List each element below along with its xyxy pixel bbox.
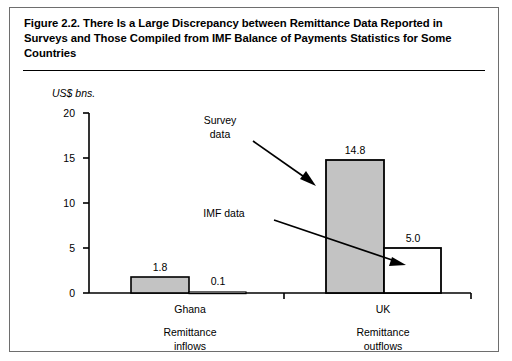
bar-uk-survey [326,160,384,293]
category-sublabel-ghana-line2: inflows [174,340,206,352]
bar-ghana-imf [189,292,246,294]
figure-frame: Figure 2.2. There Is a Large Discrepancy… [9,7,499,352]
bar-ghana-survey [131,277,189,293]
annotation-survey-line2: data [210,128,230,140]
category-sublabel-ghana-line1: Remittance [163,326,216,338]
bar-uk-imf [384,248,441,293]
chart-vector-layer [10,8,500,353]
annotation-imf-data: IMF data [189,206,259,220]
category-label-uk: UK [343,303,423,315]
bar-value-uk-survey: 14.8 [330,144,380,156]
annotation-survey-data: Survey data [188,113,252,141]
y-tick-label-10: 10 [49,197,75,209]
y-axis-unit-label: US$ bns. [52,87,95,99]
category-sublabel-uk-line1: Remittance [356,326,409,338]
bar-value-ghana-imf: 0.1 [193,275,243,287]
y-tick-label-5: 5 [49,242,75,254]
category-sublabel-uk: Remittance outflows [343,325,423,353]
annotation-survey-line1: Survey [204,114,237,126]
y-tick-label-0: 0 [49,287,75,299]
bar-value-uk-imf: 5.0 [388,232,438,244]
category-label-ghana: Ghana [150,303,230,315]
bar-value-ghana-survey: 1.8 [135,261,185,273]
y-tick-label-15: 15 [49,152,75,164]
y-tick-label-20: 20 [49,107,75,119]
category-sublabel-ghana: Remittance inflows [150,325,230,353]
category-sublabel-uk-line2: outflows [364,340,403,352]
chart-plot-area: US$ bns. 20 15 10 5 0 1.8 0.1 14.8 5.0 S… [10,8,500,353]
survey-data-arrow [253,141,316,186]
